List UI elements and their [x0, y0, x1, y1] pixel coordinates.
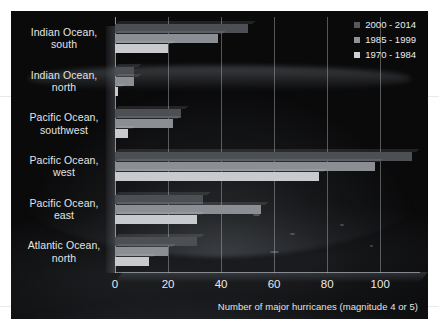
category-label-line: north [52, 81, 76, 94]
legend-swatch-2000-2014-icon [354, 22, 360, 28]
category-label-line: south [51, 38, 77, 51]
x-tick-label-80: 80 [321, 277, 334, 291]
category-label-pacific-ocean-west: Pacific Ocean, west [15, 145, 113, 188]
category-label-indian-ocean-south: Indian Ocean, south [15, 17, 113, 60]
legend-label-2000-2014: 2000 - 2014 [365, 19, 416, 30]
category-label-line: southwest [40, 124, 88, 137]
bar-row [115, 247, 420, 256]
category-label-line: east [54, 209, 74, 222]
bar-indian-ocean-north-1970-1984[interactable] [115, 87, 118, 96]
x-tick-label-20: 20 [162, 277, 175, 291]
category-label-line: Pacific Ocean, [29, 197, 98, 210]
bar-group-pacific-ocean-west [115, 145, 420, 188]
bar-atlantic-ocean-north-1970-1984[interactable] [115, 257, 149, 266]
bar-row [115, 77, 420, 86]
bar-row [115, 257, 420, 266]
x-tick-label-100: 100 [371, 277, 390, 291]
legend-label-1985-1999: 1985 - 1999 [365, 34, 416, 45]
category-axis: Indian Ocean, south Indian Ocean, north … [15, 17, 113, 273]
x-axis-tick-labels: 020406080100 [115, 277, 420, 291]
category-label-indian-ocean-north: Indian Ocean, north [15, 60, 113, 103]
x-tick-label-60: 60 [268, 277, 281, 291]
bar-group-atlantic-ocean-north [115, 230, 420, 273]
legend-label-1970-1984: 1970 - 1984 [365, 49, 416, 60]
bar-pacific-ocean-west-1970-1984[interactable] [115, 172, 319, 181]
category-label-line: Indian Ocean, [31, 26, 98, 39]
legend-item-1985-1999[interactable]: 1985 - 1999 [354, 34, 416, 45]
legend-item-1970-1984[interactable]: 1970 - 1984 [354, 49, 416, 60]
category-label-line: Pacific Ocean, [29, 154, 98, 167]
category-label-atlantic-ocean-north: Atlantic Ocean, north [15, 230, 113, 273]
bar-pacific-ocean-southwest-1970-1984[interactable] [115, 129, 128, 138]
bar-row [115, 119, 420, 128]
category-label-line: north [52, 252, 76, 265]
legend-item-2000-2014[interactable]: 2000 - 2014 [354, 19, 416, 30]
bar-indian-ocean-south-1970-1984[interactable] [115, 44, 168, 53]
category-label-line: Atlantic Ocean, [28, 239, 101, 252]
chart-legend: 2000 - 2014 1985 - 1999 1970 - 1984 [352, 17, 418, 62]
bar-group-indian-ocean-north [115, 60, 420, 103]
bar-row [115, 172, 420, 181]
legend-swatch-1970-1984-icon [354, 52, 360, 58]
category-label-line: west [53, 166, 75, 179]
bar-group-pacific-ocean-southwest [115, 102, 420, 145]
bar-row [115, 67, 420, 76]
bar-row [115, 129, 420, 138]
hurricane-bar-chart: Indian Ocean, south Indian Ocean, north … [11, 11, 428, 319]
x-axis-title: Number of major hurricanes (magnitude 4 … [218, 301, 418, 313]
bar-pacific-ocean-east-1970-1984[interactable] [115, 215, 197, 224]
x-tick-label-0: 0 [112, 277, 118, 291]
screenshot-root: Indian Ocean, south Indian Ocean, north … [0, 0, 439, 329]
legend-swatch-1985-1999-icon [354, 37, 360, 43]
category-label-line: Pacific Ocean, [29, 111, 98, 124]
category-label-pacific-ocean-southwest: Pacific Ocean, southwest [15, 102, 113, 145]
x-tick-label-40: 40 [215, 277, 228, 291]
axis-left-wall [106, 26, 115, 273]
category-label-pacific-ocean-east: Pacific Ocean, east [15, 188, 113, 231]
category-label-line: Indian Ocean, [31, 69, 98, 82]
bar-row [115, 215, 420, 224]
bar-row [115, 87, 420, 96]
bar-group-pacific-ocean-east [115, 188, 420, 231]
